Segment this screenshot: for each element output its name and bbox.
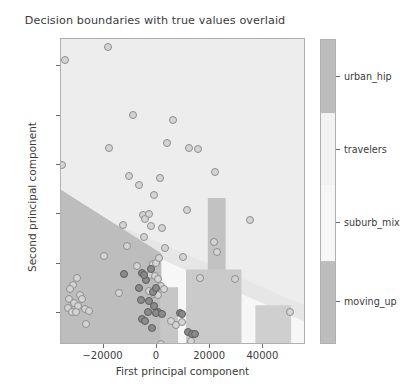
data-point bbox=[179, 253, 187, 261]
data-point bbox=[158, 224, 166, 232]
data-point bbox=[72, 308, 80, 316]
colorbar-tick-mark bbox=[336, 149, 340, 150]
data-point bbox=[137, 296, 145, 304]
data-point bbox=[158, 310, 166, 318]
x-tick-label: 40000 bbox=[246, 350, 278, 361]
colorbar-segment bbox=[321, 40, 335, 113]
colorbar-tick-label: suburb_mix bbox=[344, 217, 400, 228]
colorbar-segment bbox=[321, 185, 335, 261]
colorbar bbox=[320, 39, 336, 344]
colorbar-tick-label: urban_hip bbox=[344, 70, 392, 81]
data-point bbox=[160, 285, 168, 293]
data-point bbox=[115, 289, 123, 297]
colorbar-tick-mark bbox=[336, 76, 340, 77]
data-point bbox=[211, 168, 219, 176]
data-point bbox=[141, 317, 149, 325]
data-point bbox=[156, 174, 164, 182]
colorbar-tick-mark bbox=[336, 222, 340, 223]
colorbar-segment bbox=[321, 113, 335, 186]
plot-area bbox=[60, 38, 305, 344]
data-point bbox=[169, 116, 177, 124]
chart-title: Decision boundaries with true values ove… bbox=[0, 14, 310, 27]
data-point bbox=[78, 295, 86, 303]
data-point bbox=[125, 172, 133, 180]
data-point bbox=[196, 274, 204, 282]
data-point bbox=[178, 318, 186, 326]
x-tick-mark bbox=[209, 344, 210, 348]
data-point bbox=[161, 244, 169, 252]
data-point bbox=[194, 145, 202, 153]
data-point bbox=[163, 139, 171, 147]
x-tick-mark bbox=[156, 344, 157, 348]
data-point bbox=[191, 330, 199, 338]
data-point bbox=[140, 271, 148, 279]
data-point bbox=[66, 285, 74, 293]
data-point bbox=[119, 221, 127, 229]
data-point bbox=[82, 320, 90, 328]
colorbar-tick-mark bbox=[336, 301, 340, 302]
x-axis-label: First principal component bbox=[60, 365, 305, 377]
colorbar-tick-label: moving_up bbox=[344, 296, 397, 307]
data-point bbox=[144, 308, 152, 316]
data-point bbox=[210, 238, 218, 246]
data-point bbox=[140, 233, 148, 241]
data-point bbox=[231, 275, 239, 283]
data-point bbox=[150, 191, 158, 199]
data-point bbox=[104, 43, 112, 51]
colorbar-tick-label: travelers bbox=[344, 143, 387, 154]
y-axis-label: Second principal component bbox=[26, 97, 38, 297]
data-point bbox=[213, 248, 221, 256]
data-point bbox=[185, 144, 193, 152]
colorbar-segment bbox=[321, 261, 335, 343]
data-point bbox=[135, 284, 143, 292]
x-tick-label: 0 bbox=[153, 350, 159, 361]
x-tick-mark bbox=[262, 344, 263, 348]
data-point bbox=[148, 324, 156, 332]
data-point bbox=[286, 308, 294, 316]
x-tick-label: 20000 bbox=[193, 350, 225, 361]
data-point bbox=[85, 307, 93, 315]
data-point bbox=[61, 56, 69, 64]
scatter-points-layer bbox=[61, 39, 304, 343]
data-point bbox=[123, 242, 131, 250]
data-point bbox=[129, 111, 137, 119]
data-point bbox=[100, 252, 108, 260]
x-tick-mark bbox=[103, 344, 104, 348]
data-point bbox=[135, 181, 143, 189]
x-tick-label: −20000 bbox=[82, 350, 122, 361]
data-point bbox=[147, 222, 155, 230]
data-point bbox=[155, 254, 163, 262]
data-point bbox=[152, 284, 160, 292]
data-point bbox=[157, 340, 165, 344]
data-point bbox=[183, 206, 191, 214]
figure-canvas: Decision boundaries with true values ove… bbox=[0, 0, 415, 392]
data-point bbox=[147, 265, 155, 273]
data-point bbox=[246, 216, 254, 224]
data-point bbox=[120, 270, 128, 278]
data-point bbox=[178, 310, 186, 318]
data-point bbox=[105, 144, 113, 152]
data-point bbox=[60, 161, 66, 169]
data-point bbox=[145, 210, 153, 218]
